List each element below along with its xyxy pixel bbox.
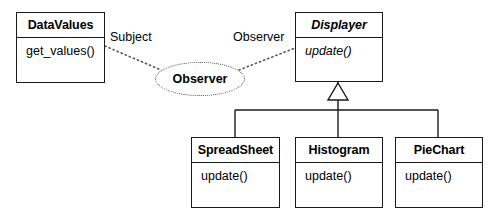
observer-participation-line (239, 48, 295, 70)
class-name-histogram: Histogram (296, 138, 382, 163)
class-box-datavalues[interactable]: DataValues get_values() (16, 12, 105, 83)
role-label-subject: Subject (110, 30, 152, 44)
class-member-piechart: update() (396, 163, 482, 207)
class-box-displayer[interactable]: Displayer update() (295, 12, 383, 82)
class-member-spreadsheet: update() (192, 163, 279, 207)
class-name-spreadsheet: SpreadSheet (192, 138, 279, 163)
class-name-piechart: PieChart (396, 138, 482, 163)
class-name-datavalues: DataValues (17, 13, 104, 38)
class-box-spreadsheet[interactable]: SpreadSheet update() (191, 137, 280, 208)
collaboration-ellipse-observer[interactable]: Observer (155, 62, 245, 96)
class-box-histogram[interactable]: Histogram update() (295, 137, 383, 208)
subject-participation-line (105, 46, 161, 70)
class-member-datavalues: get_values() (17, 38, 104, 82)
class-box-piechart[interactable]: PieChart update() (395, 137, 483, 208)
class-member-histogram: update() (296, 163, 382, 207)
inheritance-triangle-icon (328, 83, 348, 100)
collaboration-label: Observer (173, 72, 228, 86)
class-name-displayer: Displayer (296, 13, 382, 38)
role-label-observer: Observer (233, 30, 284, 44)
class-member-displayer: update() (296, 38, 382, 81)
uml-class-diagram: DataValues get_values() Displayer update… (0, 0, 496, 215)
